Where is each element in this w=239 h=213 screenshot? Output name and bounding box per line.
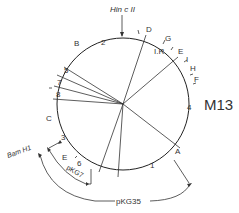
fragment-E: E bbox=[178, 47, 183, 56]
fragment-4: 4 bbox=[187, 103, 192, 112]
fragment-3: 3 bbox=[61, 133, 66, 142]
fragment-B: B bbox=[74, 39, 79, 48]
fragment-1: 1 bbox=[150, 161, 155, 170]
fragment-2: 2 bbox=[101, 38, 106, 47]
hincii-label: Hin c II bbox=[110, 5, 136, 14]
m13-restriction-map: Hin c II A B C D E E F G H I I.R. 1 2 3 … bbox=[0, 0, 239, 213]
pkg35-label: pKG35 bbox=[116, 197, 141, 206]
diagram-title: M13 bbox=[204, 96, 233, 113]
fragment-8: 8 bbox=[56, 90, 61, 99]
cut-lines bbox=[53, 35, 180, 177]
fragment-I: I bbox=[186, 55, 188, 64]
pkg7-label: pKG7 bbox=[65, 164, 85, 180]
fragment-F: F bbox=[194, 75, 199, 84]
fragment-5: 5 bbox=[64, 66, 69, 75]
fragment-6: 6 bbox=[77, 159, 82, 168]
fragment-H: H bbox=[190, 64, 196, 73]
fragment-A: A bbox=[175, 147, 181, 156]
fragment-E2: E bbox=[62, 153, 67, 162]
fragment-7: 7 bbox=[57, 78, 62, 87]
fragment-D: D bbox=[146, 25, 152, 34]
site-ticks bbox=[49, 30, 196, 158]
bamh1-label: Bam H1 bbox=[6, 144, 32, 159]
fragment-C: C bbox=[46, 114, 52, 123]
ir-label: I.R. bbox=[154, 47, 166, 56]
fragment-G: G bbox=[165, 34, 171, 43]
